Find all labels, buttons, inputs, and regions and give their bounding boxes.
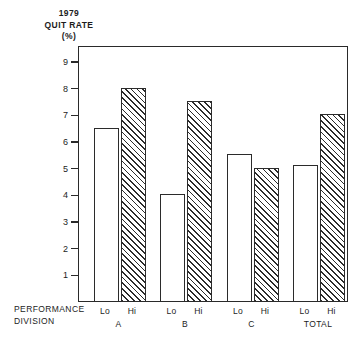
y-axis-tick-label: 9 [44,56,68,68]
y-axis-tick-label: 4 [44,189,68,201]
x-sublabel-b-hi: Hi [186,306,211,317]
bar-a-lo [94,128,119,301]
y-axis-tick-label: 1 [44,269,68,281]
y-axis-tick-mark [71,248,78,249]
bar-b-lo [160,194,185,301]
y-axis-tick-label: 5 [44,163,68,175]
x-sublabel-a-lo: Lo [93,306,118,317]
x-sublabel-c-lo: Lo [226,306,251,317]
y-axis-tick-mark [71,88,78,89]
y-axis-tick-mark [71,275,78,276]
y-axis-tick-label: 2 [44,243,68,255]
bar-total-lo [293,165,318,301]
quit-rate-bar-chart: 1979 QUIT RATE (%) PERFORMANCE DIVISION … [0,0,364,348]
bar-c-hi [254,168,279,301]
y-axis-tick-label: 6 [44,136,68,148]
bar-total-hi [320,114,345,301]
x-group-label-total: TOTAL [278,319,358,330]
x-sublabel-a-hi: Hi [120,306,145,317]
y-axis-tick-mark [71,115,78,116]
y-axis-tick-mark [71,221,78,222]
bar-a-hi [121,88,146,301]
y-axis-tick-mark [71,61,78,62]
bar-b-hi [187,101,212,301]
y-axis-tick-mark [71,168,78,169]
y-axis-tick-label: 3 [44,216,68,228]
y-axis-tick-label: 8 [44,83,68,95]
y-axis-tick-mark [71,195,78,196]
y-axis-tick-mark [71,141,78,142]
x-sublabel-total-lo: Lo [292,306,317,317]
plot-area [78,46,348,302]
y-axis-tick-label: 7 [44,109,68,121]
x-sublabel-b-lo: Lo [159,306,184,317]
y-axis: 123456789 [0,0,78,348]
bar-c-lo [227,154,252,301]
x-sublabel-total-hi: Hi [319,306,344,317]
x-sublabel-c-hi: Hi [253,306,278,317]
